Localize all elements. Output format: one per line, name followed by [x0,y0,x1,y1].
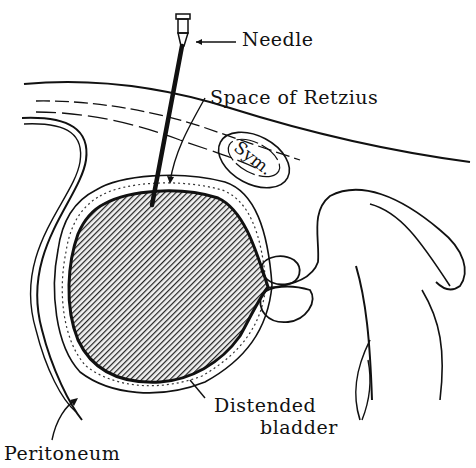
bladder-leader [362,360,370,420]
peritoneum-label: Peritoneum [4,444,120,463]
retzius-arrowhead [167,176,174,184]
scrotum-line-2 [422,290,442,400]
bladder-label: bladder [260,418,338,437]
diagram-canvas: Needle Space of Retzius Sym. Distended b… [0,0,476,468]
urethra-line [266,190,465,290]
needle-label: Needle [242,30,314,49]
upper-lobe [262,256,300,284]
retzius-leader [170,98,205,182]
perineal-line [356,340,370,420]
distended-label: Distended [214,396,316,415]
fascia-line [36,112,260,170]
needle-arrowhead [196,39,202,45]
penile-line [370,204,450,286]
bladder-body [69,191,268,382]
space-of-retzius-label: Space of Retzius [210,88,378,107]
